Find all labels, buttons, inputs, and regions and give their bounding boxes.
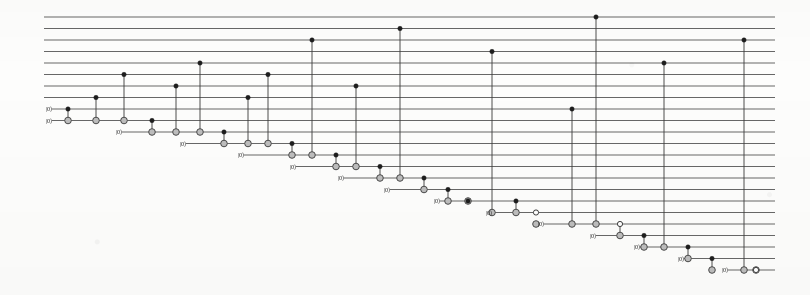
target-node (685, 255, 692, 262)
target-node (593, 221, 600, 228)
control-dot-filled (334, 153, 338, 157)
control-dot-filled (290, 141, 294, 145)
target-node (353, 163, 360, 170)
target-node (513, 209, 520, 216)
control-dot-filled (222, 130, 226, 134)
ket-label: |0⟩ (434, 197, 440, 204)
control-dot-filled (266, 72, 270, 76)
target-node (569, 221, 576, 228)
target-node (93, 117, 100, 124)
ket-label: |0⟩ (46, 105, 52, 112)
control-dot-filled (198, 61, 202, 65)
target-node (149, 129, 156, 136)
control-dot-open (533, 210, 538, 215)
ket-label: |0⟩ (338, 174, 344, 181)
ket-label: |0⟩ (46, 117, 52, 124)
control-dot-filled (310, 38, 314, 42)
control-dot-filled (466, 199, 470, 203)
control-dot-filled (398, 26, 402, 30)
ket-label: |0⟩ (486, 209, 492, 216)
target-node (397, 175, 404, 182)
control-dot-filled (594, 15, 598, 19)
target-node (709, 267, 716, 274)
control-dot-filled (422, 176, 426, 180)
control-dot-filled (446, 187, 450, 191)
target-node (197, 129, 204, 136)
target-node (741, 267, 748, 274)
target-node (617, 232, 624, 239)
ket-label: |0⟩ (238, 151, 244, 158)
target-node (245, 140, 252, 147)
control-dot-filled (122, 72, 126, 76)
ket-label: |0⟩ (538, 220, 544, 227)
control-dot-filled (490, 49, 494, 53)
target-node (121, 117, 128, 124)
ket-label: |0⟩ (290, 163, 296, 170)
control-dot-filled (174, 84, 178, 88)
control-dot-filled (94, 95, 98, 99)
ket-label: |0⟩ (116, 128, 122, 135)
target-node (421, 186, 428, 193)
target-node (377, 175, 384, 182)
target-node (65, 117, 72, 124)
figure-canvas: |0⟩|0⟩|0⟩|0⟩|0⟩|0⟩|0⟩|0⟩|0⟩|0⟩|0⟩|0⟩|0⟩|… (0, 0, 810, 295)
target-node (173, 129, 180, 136)
target-node (641, 244, 648, 251)
control-dot-filled (514, 199, 518, 203)
target-node (661, 244, 668, 251)
target-node (445, 198, 452, 205)
control-dot-filled (686, 245, 690, 249)
control-dot-filled (662, 61, 666, 65)
target-node (221, 140, 228, 147)
control-dot-filled (354, 84, 358, 88)
control-dot-open (617, 221, 622, 226)
qubit-wires-group (44, 17, 775, 270)
control-dot-filled (378, 164, 382, 168)
ket-label: |0⟩ (678, 255, 684, 262)
ket-label: |0⟩ (590, 232, 596, 239)
target-node (333, 163, 340, 170)
target-nodes-group (65, 117, 760, 273)
control-dot-open (753, 267, 758, 272)
ket-label: |0⟩ (634, 243, 640, 250)
control-dot-filled (570, 107, 574, 111)
control-dot-filled (246, 95, 250, 99)
control-dot-filled (66, 107, 70, 111)
target-node (265, 140, 272, 147)
target-node (289, 152, 296, 159)
control-dot-filled (642, 233, 646, 237)
quantum-circuit-diagram: |0⟩|0⟩|0⟩|0⟩|0⟩|0⟩|0⟩|0⟩|0⟩|0⟩|0⟩|0⟩|0⟩|… (0, 0, 810, 295)
ket-label: |0⟩ (722, 266, 728, 273)
control-dot-filled (742, 38, 746, 42)
control-dot-filled (150, 118, 154, 122)
control-dot-filled (710, 256, 714, 260)
ket-label: |0⟩ (180, 140, 186, 147)
target-node (309, 152, 316, 159)
ket-label: |0⟩ (384, 186, 390, 193)
